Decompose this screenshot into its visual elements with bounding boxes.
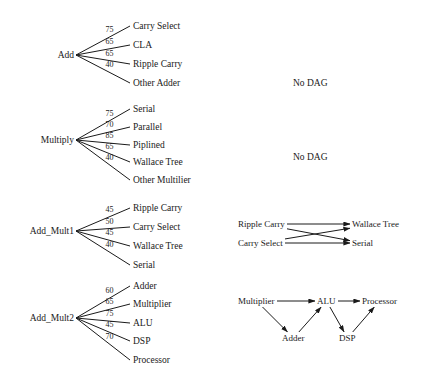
edge-weight: 75 xyxy=(105,110,113,118)
tree-leaf-label: Piplined xyxy=(133,140,165,150)
edge-weight: 60 xyxy=(105,287,113,295)
edge-weight: 70 xyxy=(105,333,113,341)
edge-weight: 75 xyxy=(105,310,113,318)
tree-leaf-label: Adder xyxy=(133,281,157,291)
dag-edge-arrow xyxy=(330,307,344,332)
tree-leaf-label: Carry Select xyxy=(133,21,180,31)
tree-edge xyxy=(76,140,130,180)
tree-root-label: Add_Mult1 xyxy=(21,226,74,236)
dag-edge-arrow xyxy=(353,307,375,332)
tree-edge xyxy=(76,286,130,318)
tree-leaf-label: Other Adder xyxy=(133,78,180,88)
tree-edge-group xyxy=(76,26,130,360)
dag-node-label: Carry Select xyxy=(238,238,283,248)
dag-node-label: ALU xyxy=(317,296,336,306)
edge-weight: 65 xyxy=(105,38,113,46)
tree-edge xyxy=(76,127,130,140)
tree-leaf-label: Other Multilier xyxy=(133,175,191,185)
edge-weight: 40 xyxy=(105,61,113,69)
dag-node-label: Adder xyxy=(282,333,305,343)
tree-edge xyxy=(76,231,130,246)
edge-weight: 50 xyxy=(105,218,113,226)
tree-leaf-label: DSP xyxy=(133,336,150,346)
tree-edge xyxy=(76,45,130,55)
dag-node-label: Processor xyxy=(362,296,397,306)
tree-leaf-label: Serial xyxy=(133,260,155,270)
dag-edge-arrow xyxy=(287,229,350,241)
edge-weight: 70 xyxy=(105,121,113,129)
tree-leaf-label: ALU xyxy=(133,318,153,328)
tree-leaf-label: Carry Select xyxy=(133,222,180,232)
tree-leaf-label: Parallel xyxy=(133,122,162,132)
dag-node-label: Serial xyxy=(352,238,373,248)
dag-edge-arrow xyxy=(299,307,321,332)
tree-edge xyxy=(76,318,130,360)
tree-edge xyxy=(76,109,130,140)
edge-weight: 65 xyxy=(105,50,113,58)
edge-weight: 65 xyxy=(105,143,113,151)
edge-weight: 65 xyxy=(105,298,113,306)
dag-edge-arrow xyxy=(263,307,288,332)
tree-leaf-label: CLA xyxy=(133,40,152,50)
tree-edge xyxy=(76,318,130,323)
edge-weight: 40 xyxy=(105,241,113,249)
tree-leaf-label: Wallace Tree xyxy=(133,241,183,251)
tree-edge xyxy=(76,231,130,265)
dag-node-label: Ripple Carry xyxy=(238,219,285,229)
tree-leaf-label: Multiplier xyxy=(133,299,172,309)
tree-leaf-label: Wallace Tree xyxy=(133,157,183,167)
tree-root-label: Multiply xyxy=(35,135,74,145)
tree-edge xyxy=(76,140,130,145)
tree-edge xyxy=(76,304,130,318)
edge-weight: 45 xyxy=(105,229,113,237)
tree-root-label: Add_Mult2 xyxy=(21,313,74,323)
no-dag-label: No DAG xyxy=(293,152,328,162)
dag-node-label: Multiplier xyxy=(238,296,275,306)
edge-weight: 45 xyxy=(105,321,113,329)
tree-leaf-label: Ripple Carry xyxy=(133,203,182,213)
dag-node-label: Wallace Tree xyxy=(352,219,399,229)
tree-leaf-label: Serial xyxy=(133,104,155,114)
edge-weight: 40 xyxy=(105,154,113,162)
tree-leaf-label: Ripple Carry xyxy=(133,59,182,69)
edge-weight: 85 xyxy=(105,132,113,140)
tree-edge xyxy=(76,140,130,162)
tree-root-label: Add xyxy=(48,50,74,60)
no-dag-label: No DAG xyxy=(293,78,328,88)
edge-weight: 75 xyxy=(105,26,113,34)
edge-weight: 45 xyxy=(105,206,113,214)
tree-leaf-label: Processor xyxy=(133,355,170,365)
dag-node-label: DSP xyxy=(339,333,356,343)
tree-edge xyxy=(76,318,130,341)
tree-edge xyxy=(76,26,130,55)
